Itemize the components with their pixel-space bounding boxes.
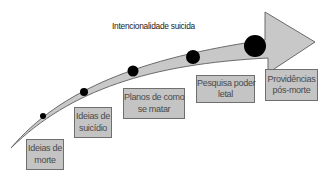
stage-box-providencias-pos-morte: Providências pós-morte	[265, 69, 318, 101]
stage-label-line1: Providências	[266, 74, 317, 86]
stage-label-line1: Ideias de	[75, 111, 111, 123]
intensity-dot-5	[244, 35, 266, 57]
diagram-title: Intencionalidade suicida	[112, 20, 195, 31]
stage-label-line1: Ideias de	[27, 143, 63, 155]
stage-label-line2: pós-morte	[266, 85, 317, 97]
stage-label-line2: suicídio	[75, 123, 111, 135]
intensity-dot-4	[186, 50, 200, 64]
intensity-dot-1	[40, 113, 46, 119]
stage-label-line1: Pesquisa poder	[197, 78, 254, 90]
stage-box-planos-de-como-se-matar: Planos de como se matar	[123, 88, 185, 119]
stage-label-line2: morte	[27, 155, 63, 167]
stage-label-line2: letal	[197, 89, 254, 101]
stage-box-ideias-de-suicidio: Ideias de suicídio	[74, 107, 112, 138]
stage-box-pesquisa-poder-letal: Pesquisa poder letal	[196, 75, 255, 103]
stage-box-ideias-de-morte: Ideias de morte	[26, 139, 64, 170]
stage-label-line2: se matar	[124, 104, 184, 116]
intensity-dot-3	[128, 66, 139, 77]
stage-label-line1: Planos de como	[124, 92, 184, 104]
intensity-dot-2	[80, 88, 88, 96]
